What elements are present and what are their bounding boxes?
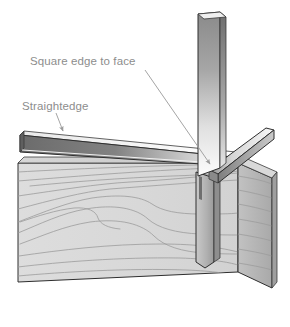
- blade-side-face: [220, 12, 226, 168]
- square-blade-against-face: [196, 172, 220, 268]
- board-back-edge: [272, 172, 277, 288]
- face-blade-body: [196, 172, 214, 268]
- wooden-board: [18, 157, 277, 288]
- label-straightedge: Straightedge: [22, 100, 88, 112]
- label-square-edge-to-face: Square edge to face: [30, 55, 135, 67]
- face-blade-slot: [199, 176, 202, 200]
- illustration-figure: Square edge to face Straightedge: [0, 0, 290, 327]
- try-square-blade: [198, 12, 226, 176]
- leader-straightedge: [56, 113, 63, 131]
- face-blade-side: [214, 175, 220, 262]
- board-end-face: [238, 163, 272, 288]
- straightedge-left-end: [20, 131, 24, 152]
- technical-illustration: Square edge to face Straightedge: [0, 0, 290, 327]
